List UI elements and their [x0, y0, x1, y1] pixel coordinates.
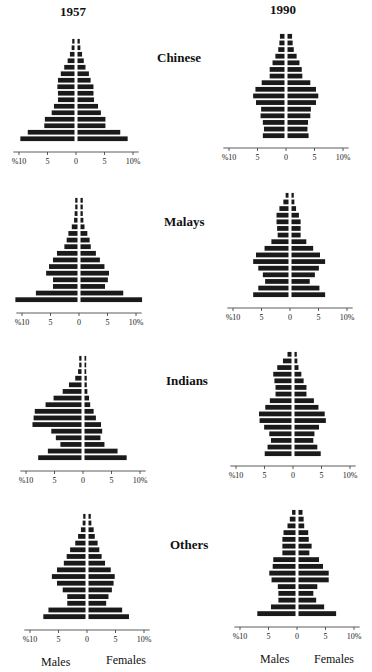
- male-bar: [273, 372, 291, 377]
- x-axis-tick-label: 5: [57, 635, 61, 644]
- female-bar: [288, 127, 308, 132]
- male-bar: [253, 259, 288, 264]
- female-bar: [299, 604, 325, 609]
- pyramid-malays-1957: %1050510%: [15, 198, 144, 327]
- male-bar: [48, 608, 85, 613]
- male-bar: [279, 206, 288, 211]
- female-bar: [292, 219, 301, 224]
- male-bar: [263, 120, 285, 125]
- x-axis-tick-label: 0: [74, 157, 78, 166]
- female-bar: [89, 601, 107, 606]
- female-bar: [288, 41, 293, 46]
- male-bar: [45, 117, 75, 122]
- females-label-right: Females: [314, 652, 354, 667]
- male-bar: [70, 52, 75, 57]
- male-bar: [259, 412, 291, 417]
- male-bar: [68, 231, 77, 236]
- x-axis-tick-label: 10%: [137, 635, 152, 644]
- male-bar: [273, 60, 285, 65]
- female-bar: [299, 584, 318, 589]
- male-bar: [74, 218, 77, 223]
- female-bar: [295, 445, 318, 450]
- female-bar: [288, 113, 311, 118]
- male-bar: [263, 272, 289, 277]
- female-bar: [81, 251, 96, 256]
- female-bar: [78, 91, 94, 96]
- male-bar: [258, 286, 288, 291]
- female-bar: [288, 87, 317, 92]
- male-bar: [279, 41, 284, 46]
- pyramid-malays-1990: %1050510%: [226, 193, 355, 322]
- male-bar: [53, 258, 78, 263]
- male-bar: [79, 363, 81, 368]
- female-bar: [288, 54, 297, 59]
- female-bar: [78, 84, 94, 89]
- female-bar: [81, 264, 105, 269]
- female-bar: [292, 206, 297, 211]
- male-bar: [288, 523, 296, 528]
- male-bar: [69, 382, 82, 387]
- female-bar: [89, 561, 106, 566]
- female-bar: [295, 385, 307, 390]
- male-bar: [46, 271, 77, 276]
- male-bar: [75, 198, 77, 203]
- x-axis-tick-label: 0: [291, 471, 295, 480]
- female-bar: [78, 58, 84, 63]
- x-axis-tick-label: %10: [233, 632, 248, 641]
- male-bar: [58, 91, 75, 96]
- male-bar: [32, 422, 81, 427]
- female-bar: [295, 392, 307, 397]
- male-bar: [54, 104, 75, 109]
- female-bar: [288, 34, 293, 39]
- male-bar: [271, 604, 296, 609]
- x-axis-tick-label: 5: [267, 632, 271, 641]
- male-bar: [60, 442, 81, 447]
- female-bar: [85, 402, 91, 407]
- male-bar: [70, 547, 85, 552]
- female-bar: [299, 564, 324, 569]
- x-axis-tick-label: 0: [295, 632, 299, 641]
- pyramid-indians-1990: %1050510%: [229, 352, 358, 480]
- male-bar: [269, 571, 295, 576]
- male-bar: [260, 418, 292, 423]
- male-bar: [264, 127, 285, 132]
- female-bar: [81, 277, 108, 282]
- female-bar: [85, 416, 96, 421]
- x-axis-tick-label: 5: [263, 471, 267, 480]
- female-bar: [89, 567, 111, 572]
- female-bar: [85, 382, 87, 387]
- male-bar: [56, 435, 82, 440]
- x-axis-tick-label: %10: [222, 153, 237, 162]
- male-bar: [58, 78, 75, 83]
- male-bar: [61, 71, 75, 76]
- female-bar: [89, 521, 92, 526]
- female-bar: [78, 65, 86, 70]
- x-axis-tick-label: 5: [103, 157, 107, 166]
- male-bar: [57, 567, 86, 572]
- female-bar: [299, 557, 320, 562]
- x-axis-tick-label: 5: [313, 153, 317, 162]
- male-bar: [44, 123, 74, 128]
- female-bar: [288, 100, 317, 105]
- x-axis-tick-label: %10: [19, 476, 34, 485]
- male-bar: [278, 47, 284, 52]
- male-bar: [64, 561, 86, 566]
- x-axis-tick-label: 10%: [133, 476, 148, 485]
- male-bar: [83, 514, 85, 519]
- x-axis-tick-label: 5: [260, 313, 264, 322]
- male-bar: [46, 402, 82, 407]
- male-bar: [288, 352, 292, 357]
- pyramid-chinese-1990: %1050510%: [222, 34, 351, 162]
- male-bar: [262, 80, 285, 85]
- males-label-right: Males: [260, 652, 289, 667]
- female-bar: [81, 291, 124, 296]
- female-bar: [288, 74, 303, 79]
- female-bar: [89, 581, 114, 586]
- male-bar: [268, 445, 292, 450]
- female-bar: [288, 67, 302, 72]
- female-bar: [288, 60, 300, 65]
- female-bar: [78, 97, 95, 102]
- male-bar: [43, 614, 85, 619]
- male-bar: [278, 598, 295, 603]
- female-bar: [81, 271, 110, 276]
